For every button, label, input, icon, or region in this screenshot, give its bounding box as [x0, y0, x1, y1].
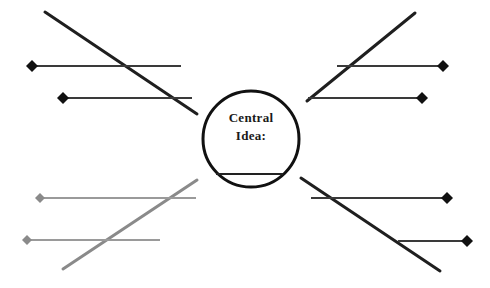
diamond-marker-right-upper-mid[interactable]	[416, 92, 428, 104]
diamond-marker-right-lower[interactable]	[441, 192, 453, 204]
central-idea-label-line-2: Idea:	[236, 128, 266, 143]
graphic-organizer-canvas: Central Idea:	[0, 0, 490, 288]
diamond-marker-left-lower[interactable]	[35, 193, 45, 203]
diamond-marker-left-bottom[interactable]	[22, 235, 32, 245]
branch-lower-right[interactable]	[301, 178, 440, 271]
central-idea-label-line-1: Central	[229, 110, 274, 125]
branch-lower-left[interactable]	[63, 180, 197, 269]
diamond-marker-right-top[interactable]	[437, 60, 449, 72]
diamond-marker-left-top[interactable]	[26, 60, 38, 72]
organizer-svg: Central Idea:	[0, 0, 490, 288]
diamond-marker-right-bottom[interactable]	[461, 235, 473, 247]
diamond-marker-left-upper-mid[interactable]	[57, 92, 69, 104]
branch-upper-right[interactable]	[307, 13, 415, 101]
